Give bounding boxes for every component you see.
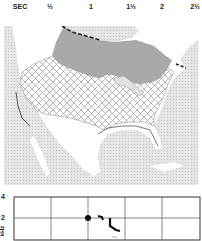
time-tick-2: 2 [160, 3, 164, 10]
time-tick-2-half: 2½ [190, 3, 200, 10]
y-tick-4: 4 [1, 193, 5, 200]
range-map [4, 26, 198, 185]
y-tick-2: 2 [1, 214, 5, 221]
time-axis: SEC ½ 1 1½ 2 2½ [0, 0, 202, 14]
sonogram-chart [4, 196, 202, 241]
sonogram-frame [14, 197, 200, 240]
time-tick-half: ½ [47, 3, 53, 10]
time-tick-1: 1 [89, 3, 93, 10]
time-tick-1-half: 1½ [126, 3, 136, 10]
time-axis-unit-label: SEC [13, 3, 27, 10]
y-axis-unit-label: kHz [0, 226, 5, 237]
sonogram-mark [85, 215, 91, 221]
